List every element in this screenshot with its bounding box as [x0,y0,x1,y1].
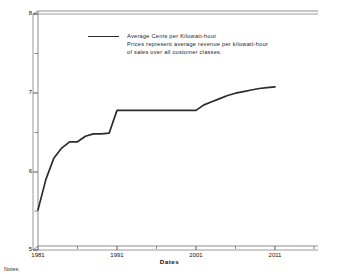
legend-line-swatch-icon [88,36,119,37]
x-axis-title: Dates [0,258,339,265]
legend-label-line3: of sales over all customer classes. [127,49,222,55]
y-tick-label-7: 7 [18,89,32,95]
series-line-average-cents [38,87,275,210]
notes-label: Notes: [4,266,20,272]
legend-label-line1: Average Cents per Kilowatt-hour [127,33,216,39]
y-tick-label-6: 6 [18,168,32,174]
legend-label-line2: Prices represent average revenue per kil… [127,41,268,47]
y-axis-minor-ticks [35,54,39,212]
y-tick-label-8: 8 [18,10,32,16]
chart-legend: Average Cents per Kilowatt-hour Prices r… [88,32,288,56]
legend-entry-average-cents: Average Cents per Kilowatt-hour Prices r… [88,32,288,56]
chart-figure: 8 7 6 5 1981 1991 2001 2011 Average Cent… [0,0,339,274]
y-axis-ticks [33,14,38,250]
